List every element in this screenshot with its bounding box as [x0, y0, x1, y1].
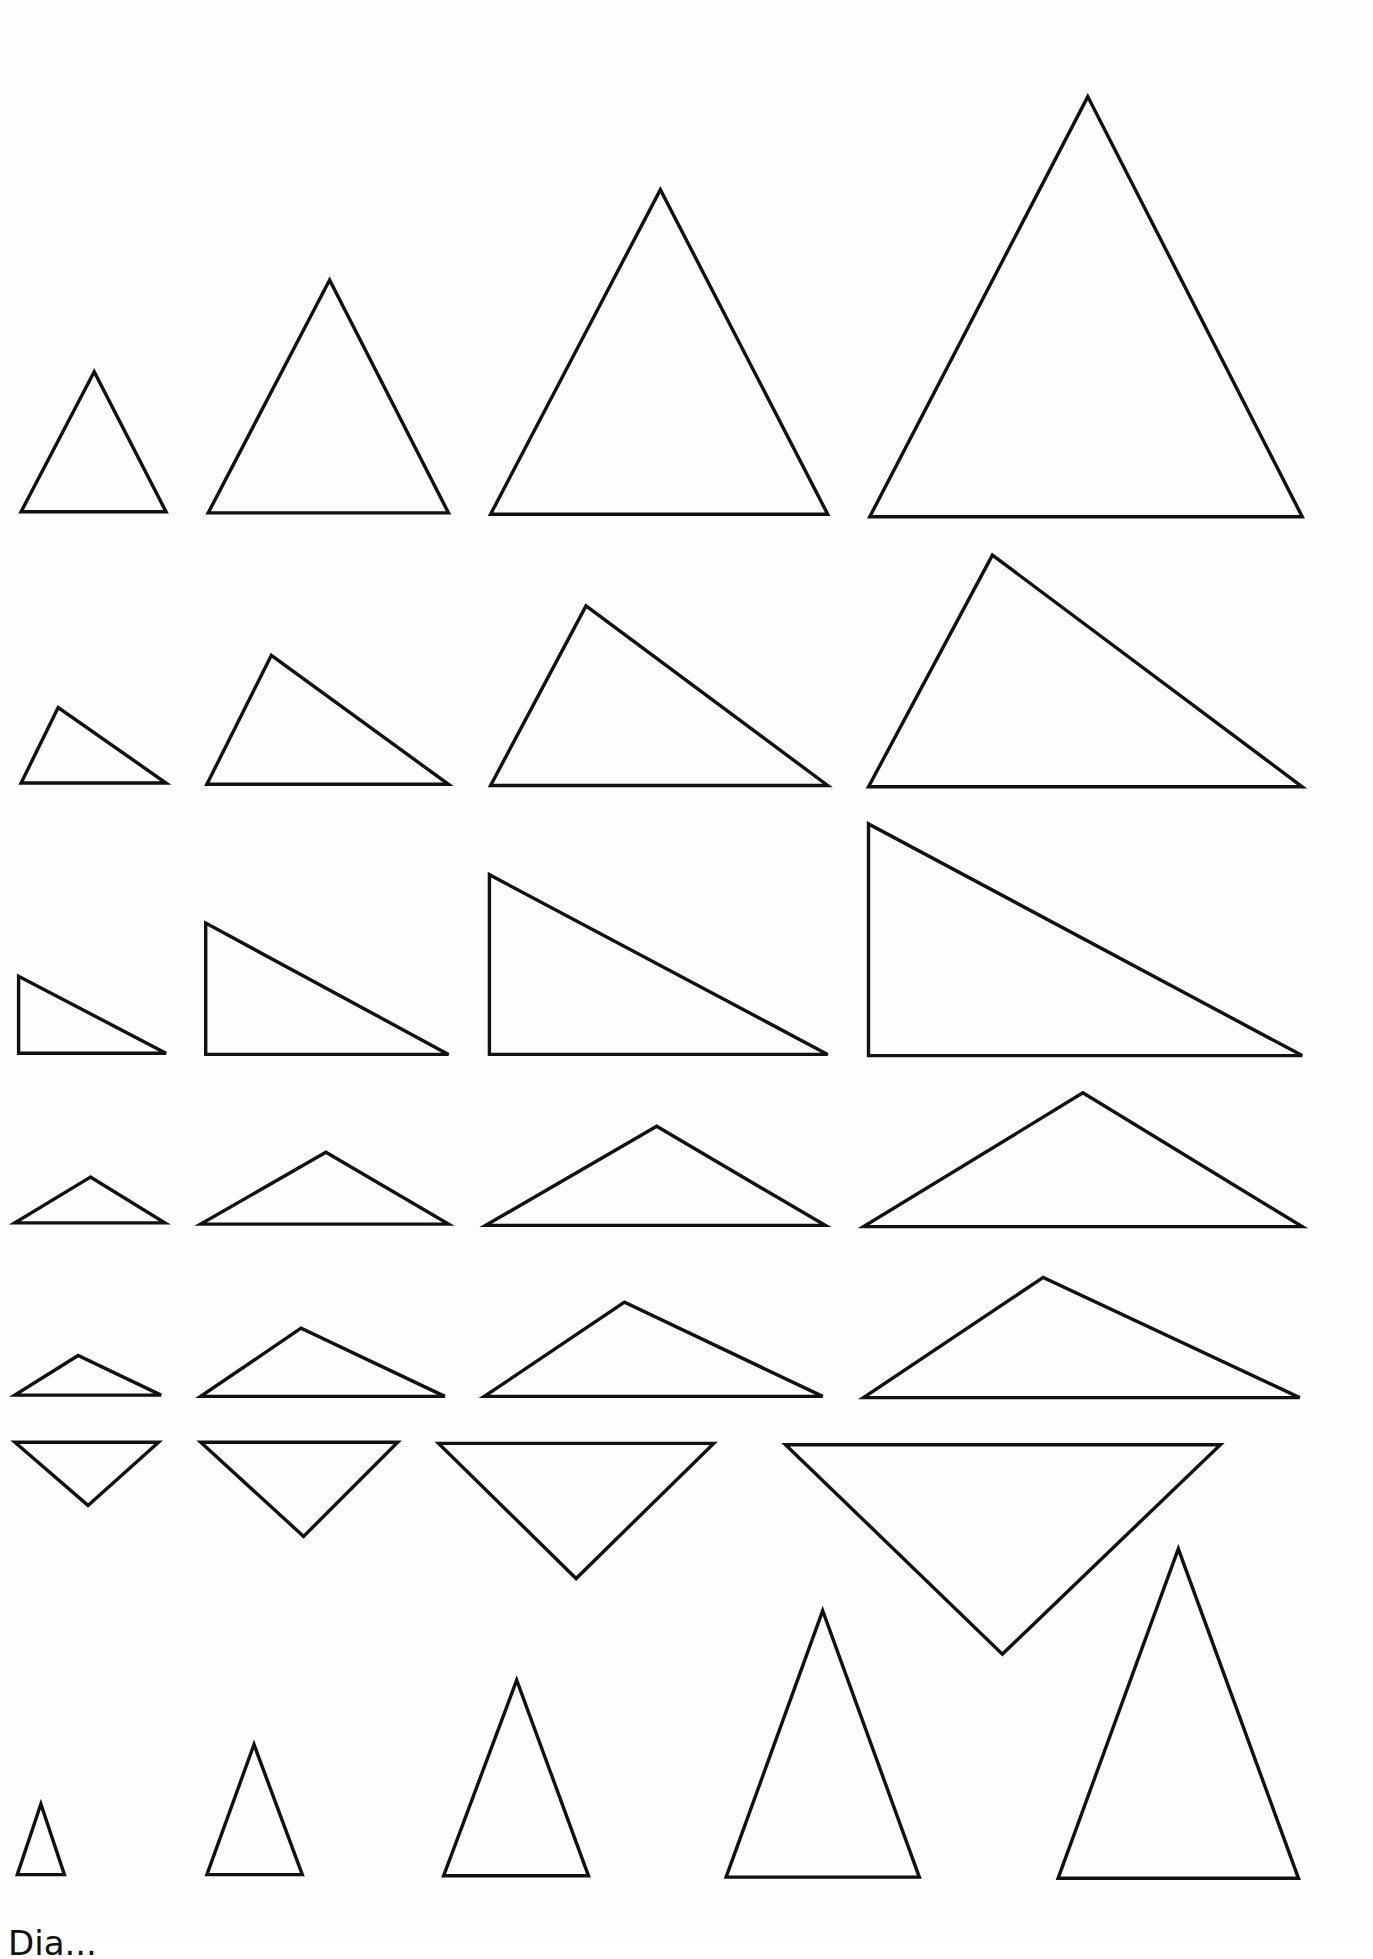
triangle-shape — [870, 97, 1302, 517]
triangle-shape — [444, 1680, 589, 1876]
triangle-shape — [201, 1442, 398, 1536]
triangle-shape — [486, 1126, 826, 1225]
triangle-shape — [869, 555, 1303, 787]
triangle-shape — [439, 1443, 714, 1578]
triangle-shape — [15, 1442, 159, 1505]
row-2-scalene — [21, 555, 1302, 787]
triangle-shape — [786, 1445, 1221, 1654]
triangle-shape — [869, 824, 1303, 1056]
triangle-shape — [208, 280, 448, 513]
triangle-shape — [491, 190, 828, 515]
triangle-shape — [489, 875, 827, 1055]
triangle-shape — [207, 655, 449, 784]
row-3-right — [19, 824, 1303, 1056]
triangle-shape — [484, 1302, 822, 1396]
footer-caption: Dia... — [8, 1926, 97, 1959]
row-7-tall-isosceles — [17, 1549, 1298, 1879]
triangle-shape — [17, 1804, 64, 1875]
triangle-shape — [21, 708, 166, 784]
triangle-shape — [491, 606, 828, 786]
triangle-shape — [15, 1177, 165, 1223]
triangle-shape — [19, 976, 166, 1053]
row-5-obtuse-scalene — [15, 1277, 1300, 1397]
triangle-shape — [864, 1093, 1303, 1227]
triangle-shape — [201, 1152, 449, 1224]
triangle-shape — [206, 923, 449, 1054]
triangle-shape — [207, 1745, 302, 1875]
triangle-shape — [15, 1356, 161, 1396]
row-4-obtuse-isosceles — [15, 1093, 1302, 1227]
triangle-shape — [864, 1277, 1300, 1397]
triangle-shape — [21, 372, 166, 512]
triangle-shape — [726, 1611, 919, 1877]
triangle-shape — [1058, 1549, 1298, 1879]
triangle-shape — [201, 1328, 445, 1396]
row-6-inverted — [15, 1442, 1221, 1654]
row-1-acute-isosceles — [21, 97, 1302, 517]
